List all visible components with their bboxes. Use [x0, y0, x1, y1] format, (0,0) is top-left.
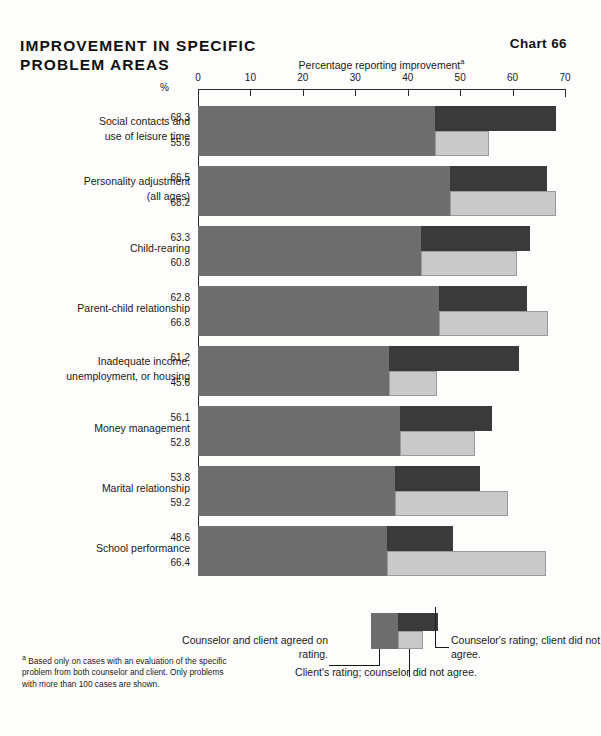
value-label-client: 66.4	[160, 557, 190, 568]
legend-swatch-agreed-lower	[371, 631, 398, 649]
legend-leader-counselor-h	[435, 647, 449, 648]
value-label-counselor: 63.3	[160, 232, 190, 243]
bar-group: School performance48.666.4	[0, 526, 587, 576]
value-label-counselor: 62.8	[160, 292, 190, 303]
value-label-client: 68.2	[160, 197, 190, 208]
value-label-counselor: 48.6	[160, 532, 190, 543]
segment-agreed	[198, 166, 450, 191]
value-label-client: 60.8	[160, 257, 190, 268]
bar-group: Personality adjustment(all ages)66.568.2	[0, 166, 587, 216]
bar-client	[198, 311, 548, 336]
segment-agreed	[198, 251, 421, 276]
segment-counselor-only	[450, 166, 547, 191]
bar-client	[198, 131, 490, 156]
value-label-counselor: 66.5	[160, 172, 190, 183]
bar-counselor	[198, 166, 547, 191]
footnote-marker: a	[22, 654, 26, 661]
segment-client-only	[389, 371, 437, 396]
segment-counselor-only	[389, 346, 518, 371]
segment-agreed	[198, 551, 387, 576]
segment-agreed	[198, 371, 389, 396]
category-label: Money management	[0, 421, 190, 436]
value-label-client: 45.6	[160, 377, 190, 388]
category-label-line1: Parent-child relationship	[0, 301, 190, 316]
segment-client-only	[387, 551, 546, 576]
category-label: School performance	[0, 541, 190, 556]
bar-counselor	[198, 286, 527, 311]
segment-client-only	[400, 431, 475, 456]
category-label: Child-rearing	[0, 241, 190, 256]
category-label: Marital relationship	[0, 481, 190, 496]
legend-swatch-agreed-upper	[371, 613, 398, 631]
segment-agreed	[198, 406, 400, 431]
category-label-line1: Money management	[0, 421, 190, 436]
category-label: Parent-child relationship	[0, 301, 190, 316]
segment-agreed	[198, 431, 400, 456]
category-label-line1: School performance	[0, 541, 190, 556]
legend-swatch-counselor-only	[398, 613, 438, 631]
bar-counselor	[198, 466, 480, 491]
legend-label-counselor: Counselor's rating; client did not agree…	[451, 633, 601, 661]
legend-leader-counselor	[435, 607, 436, 648]
category-label-line1: Child-rearing	[0, 241, 190, 256]
segment-agreed	[198, 286, 439, 311]
legend-label-client: Client's rating; counselor did not agree…	[281, 665, 491, 679]
value-label-client: 52.8	[160, 437, 190, 448]
bar-group: Money management56.152.8	[0, 406, 587, 456]
segment-agreed	[198, 491, 395, 516]
footnote-text: Based only on cases with an evaluation o…	[22, 656, 227, 689]
bar-counselor	[198, 526, 453, 551]
bar-client	[198, 431, 475, 456]
bar-client	[198, 371, 437, 396]
legend-leader-agreed	[379, 649, 380, 666]
bar-client	[198, 191, 556, 216]
segment-agreed	[198, 526, 387, 551]
segment-counselor-only	[400, 406, 492, 431]
segment-counselor-only	[395, 466, 480, 491]
segment-agreed	[198, 311, 439, 336]
legend-swatch-client-only	[398, 631, 423, 649]
segment-client-only	[439, 311, 548, 336]
chart-legend: Counselor and client agreed on rating.Co…	[0, 0, 587, 120]
bar-group: Parent-child relationship62.866.8	[0, 286, 587, 336]
segment-counselor-only	[421, 226, 530, 251]
footnote: a Based only on cases with an evaluation…	[22, 652, 237, 690]
value-label-client: 55.6	[160, 137, 190, 148]
bar-counselor	[198, 346, 519, 371]
value-label-client: 66.8	[160, 317, 190, 328]
bar-group: Inadequate income,unemployment, or housi…	[0, 346, 587, 396]
bar-client	[198, 251, 517, 276]
value-label-counselor: 56.1	[160, 412, 190, 423]
value-label-client: 59.2	[160, 497, 190, 508]
bar-group: Child-rearing63.360.8	[0, 226, 587, 276]
value-label-counselor: 53.8	[160, 472, 190, 483]
segment-agreed	[198, 191, 450, 216]
segment-agreed	[198, 226, 421, 251]
bar-counselor	[198, 406, 492, 431]
segment-client-only	[395, 491, 509, 516]
segment-counselor-only	[439, 286, 527, 311]
bar-client	[198, 491, 508, 516]
bar-counselor	[198, 226, 530, 251]
segment-client-only	[421, 251, 517, 276]
bar-group: Marital relationship53.859.2	[0, 466, 587, 516]
segment-agreed	[198, 466, 395, 491]
bar-client	[198, 551, 546, 576]
segment-client-only	[435, 131, 490, 156]
segment-agreed	[198, 131, 435, 156]
segment-counselor-only	[387, 526, 453, 551]
segment-agreed	[198, 346, 389, 371]
value-label-counselor: 61.2	[160, 352, 190, 363]
segment-client-only	[450, 191, 556, 216]
category-label-line1: Marital relationship	[0, 481, 190, 496]
